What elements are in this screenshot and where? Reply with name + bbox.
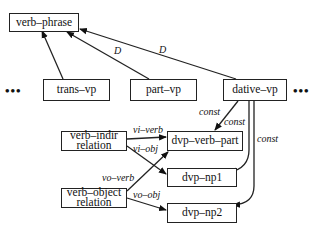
node-label: trans–vp — [57, 84, 97, 96]
node-label: part–vp — [146, 84, 181, 96]
edge-label-vo-obj: vo–obj — [133, 190, 160, 200]
node-label: dvp–np2 — [182, 207, 222, 219]
edge-label-vi-obj: vi–obj — [133, 144, 158, 154]
ellipsis-left: ••• — [5, 84, 22, 97]
edge-label-const-verbpart: const — [199, 107, 220, 117]
node-verb-phrase: verb–phrase — [9, 13, 79, 32]
edge-trans-to-verbphrase — [42, 31, 63, 79]
node-label: verb–phrase — [16, 17, 72, 29]
edge-label-vo-verb: vo–verb — [102, 173, 134, 183]
node-label: dative–vp — [232, 84, 277, 96]
node-trans-vp: trans–vp — [43, 79, 110, 101]
node-label: dvp–verb–part — [171, 135, 238, 147]
node-dvp-np1: dvp–np1 — [167, 168, 237, 187]
node-dvp-np2: dvp–np2 — [167, 203, 237, 223]
ellipsis-right: ••• — [293, 84, 310, 97]
edge-label-d-dative: D — [159, 45, 166, 55]
node-part-vp: part–vp — [130, 79, 197, 101]
node-label-line2: relation — [76, 198, 111, 208]
node-label: dvp–np1 — [182, 172, 222, 184]
node-dative-vp: dative–vp — [223, 79, 287, 101]
edge-label-vi-verb: vi–verb — [133, 125, 163, 135]
node-dvp-verb-part: dvp–verb–part — [167, 131, 243, 151]
edge-dative-to-verbphrase — [80, 29, 236, 79]
edge-label-const-np1: const — [224, 117, 245, 127]
edge-viverb — [127, 137, 166, 139]
edge-part-to-verbphrase — [67, 32, 149, 79]
diagram-canvas: verb–phrase trans–vp part–vp dative–vp v… — [0, 0, 314, 231]
edge-label-const-np2: const — [257, 134, 278, 144]
node-verb-indir-relation: verb–indir relation — [61, 131, 127, 151]
edge-label-d-part: D — [114, 46, 121, 56]
node-label-line2: relation — [76, 141, 111, 151]
node-verb-object-relation: verb–object relation — [61, 188, 127, 208]
